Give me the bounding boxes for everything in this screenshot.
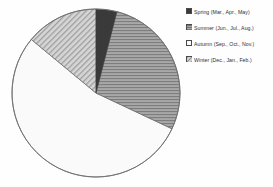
pie-plot-area [0, 0, 186, 187]
legend-swatch-winter [186, 56, 192, 62]
legend-label-winter: Winter (Dec., Jan., Feb.) [194, 56, 252, 65]
legend-item-summer[interactable]: Summer (Jun., Jul., Aug.) [186, 23, 273, 39]
legend-item-autumn[interactable]: Autumn (Sep., Oct., Nov.) [186, 39, 273, 55]
legend-swatch-summer [186, 24, 192, 30]
legend-label-spring: Spring (Mar., Apr., May) [194, 8, 250, 17]
pie-svg [0, 0, 186, 187]
legend: Spring (Mar., Apr., May) Summer (Jun., J… [186, 7, 273, 77]
swatch-diagonal-hatch-icon [187, 57, 192, 62]
legend-label-autumn: Autumn (Sep., Oct., Nov.) [194, 40, 254, 49]
legend-label-summer: Summer (Jun., Jul., Aug.) [194, 24, 254, 33]
legend-item-spring[interactable]: Spring (Mar., Apr., May) [186, 7, 273, 23]
legend-swatch-spring [186, 8, 192, 14]
swatch-horizontal-hatch-icon [187, 25, 192, 30]
pie-chart-figure: Spring (Mar., Apr., May) Summer (Jun., J… [0, 0, 273, 187]
pie-slices-group [12, 9, 180, 177]
legend-swatch-autumn [186, 40, 192, 46]
legend-item-winter[interactable]: Winter (Dec., Jan., Feb.) [186, 55, 273, 71]
